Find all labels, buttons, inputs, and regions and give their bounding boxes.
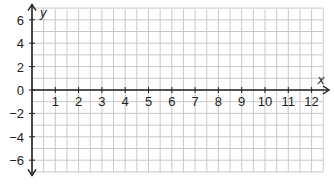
x-axis-label: x [317, 72, 325, 87]
x-tick-label: 1 [52, 94, 59, 109]
x-tick-label: 10 [258, 94, 272, 109]
x-tick-label: 9 [238, 94, 245, 109]
x-tick-label: 2 [75, 94, 82, 109]
y-tick-label: 4 [17, 36, 24, 51]
x-tick-label: 8 [215, 94, 222, 109]
y-tick-label: 2 [17, 60, 24, 75]
coordinate-grid: 123456789101112 6420−2−4−6 x y [0, 0, 334, 186]
y-tick-label: −6 [9, 153, 24, 168]
y-axis-label: y [39, 5, 48, 20]
y-tick-label: −4 [9, 130, 24, 145]
x-tick-label: 11 [282, 94, 296, 109]
y-tick-label: −2 [9, 106, 24, 121]
x-tick-label: 4 [122, 94, 129, 109]
x-tick-label: 7 [191, 94, 198, 109]
y-tick-label: 6 [17, 13, 24, 28]
x-tick-label: 5 [145, 94, 152, 109]
x-tick-label: 12 [304, 94, 318, 109]
axes [28, 5, 329, 176]
y-tick-labels: 6420−2−4−6 [9, 13, 35, 168]
x-tick-label: 3 [98, 94, 105, 109]
y-tick-label: 0 [17, 83, 24, 98]
x-tick-label: 6 [168, 94, 175, 109]
